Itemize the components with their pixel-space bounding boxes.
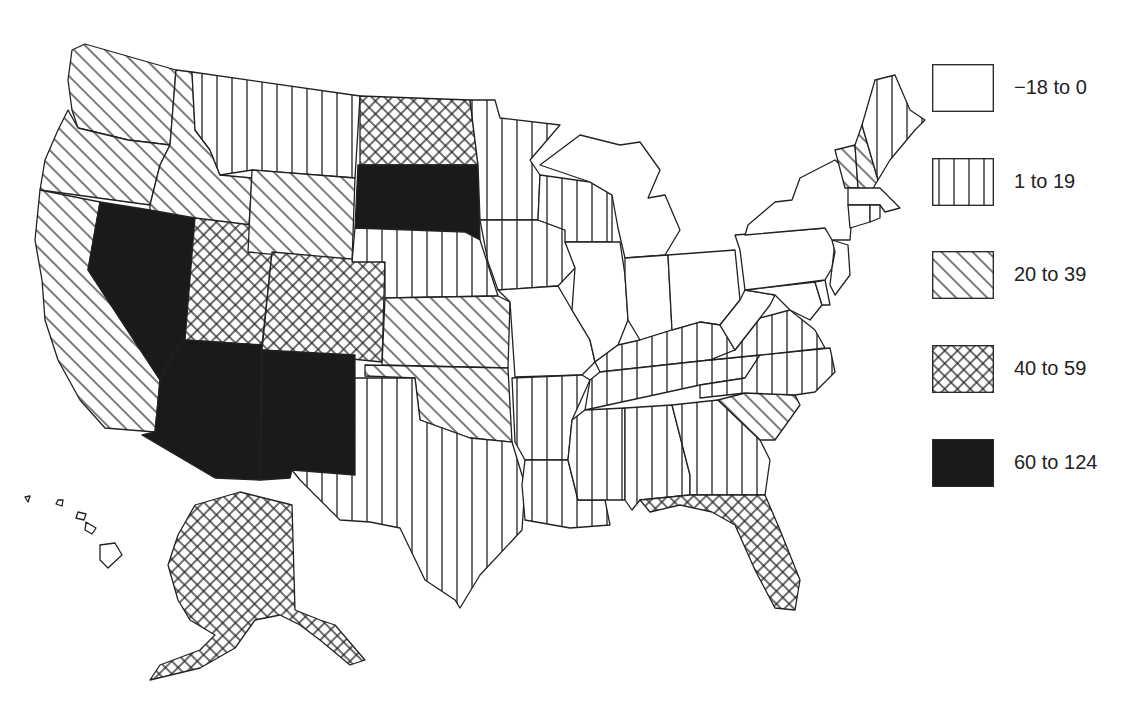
legend-label: 40 to 59	[1014, 357, 1086, 380]
states-layer	[25, 44, 925, 680]
state-HI	[25, 496, 122, 568]
state-RI	[870, 205, 880, 222]
legend-swatch-diagonal	[932, 251, 994, 299]
state-NM	[260, 350, 355, 480]
state-PA	[735, 228, 835, 290]
legend-item-c1: 1 to 19	[932, 158, 1142, 208]
state-IA	[480, 220, 575, 290]
state-WY	[248, 170, 355, 262]
legend-label: 20 to 39	[1014, 263, 1086, 286]
state-IN	[625, 255, 672, 340]
state-MS	[568, 408, 625, 500]
state-CO	[262, 252, 385, 362]
legend-label: 60 to 124	[1014, 451, 1097, 474]
legend-item-c4: 60 to 124	[932, 439, 1142, 489]
legend-item-c0: −18 to 0	[932, 64, 1142, 114]
legend-item-c2: 20 to 39	[932, 251, 1142, 301]
state-KS	[382, 296, 510, 368]
state-MT	[192, 72, 360, 178]
legend-label: 1 to 19	[1014, 170, 1075, 193]
state-ND	[360, 96, 478, 165]
state-AK	[150, 492, 365, 680]
legend-label: −18 to 0	[1014, 76, 1087, 99]
state-NY	[745, 160, 852, 240]
legend-swatch-blank	[932, 64, 994, 112]
legend-item-c3: 40 to 59	[932, 345, 1142, 395]
legend-swatch-crosshatch	[932, 345, 994, 393]
state-CT	[848, 205, 870, 228]
state-FL	[640, 495, 800, 610]
legend-swatch-vertical	[932, 158, 994, 206]
legend-swatch-solid	[932, 439, 994, 487]
